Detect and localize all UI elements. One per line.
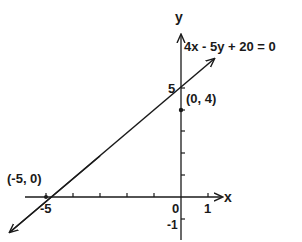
equation-label: 4x - 5y + 20 = 0	[184, 39, 276, 54]
point-y-intercept	[179, 108, 183, 112]
tick-label-1: 1	[204, 201, 211, 216]
y-axis-label: y	[175, 9, 183, 25]
point-label-x-intercept: (-5, 0)	[7, 171, 42, 186]
tick-label-neg1: -1	[167, 218, 178, 232]
graph: y x 4x - 5y + 20 = 0 5 -1 -5 0 1 (0, 4) …	[0, 0, 302, 242]
tick-label-0: 0	[172, 201, 179, 216]
tick-label-5: 5	[168, 81, 175, 96]
x-axis-label: x	[224, 189, 232, 205]
tick-label-neg5: -5	[40, 201, 52, 216]
point-x-intercept	[44, 195, 48, 199]
point-label-y-intercept: (0, 4)	[186, 91, 216, 106]
equation-line-start	[10, 156, 100, 232]
